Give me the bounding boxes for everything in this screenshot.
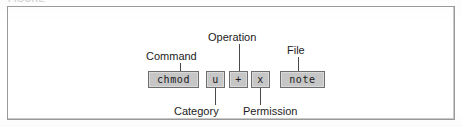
figure-frame: Command Operation File Category Permissi… [7, 6, 455, 120]
figure-caption-fragment: FIGURE [8, 0, 128, 3]
leader-line-permission [260, 88, 261, 105]
callout-label-command: Command [146, 51, 197, 62]
token-category: u [206, 71, 225, 88]
callout-label-category: Category [174, 106, 219, 117]
callout-label-operation: Operation [208, 32, 256, 43]
leader-line-command [180, 63, 181, 71]
token-permission: x [251, 71, 270, 88]
token-file: note [280, 71, 325, 88]
callout-label-file: File [287, 45, 305, 56]
leader-line-file [298, 57, 299, 71]
leader-line-category [215, 88, 216, 105]
callout-label-permission: Permission [243, 106, 297, 117]
figure-root: FIGURE Command Operation File Category P… [0, 0, 462, 127]
token-command: chmod [148, 71, 199, 88]
token-operation: + [229, 71, 248, 88]
leader-line-operation [239, 44, 240, 71]
